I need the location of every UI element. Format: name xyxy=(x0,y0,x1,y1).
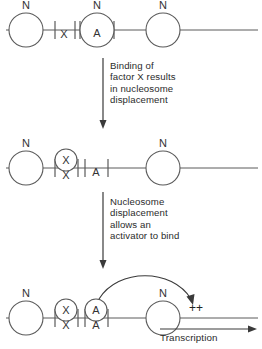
row-1-group: N N N X A xyxy=(6,0,258,47)
site-label-a-row-2: A xyxy=(92,166,100,178)
nucleosome-label-row-3-2: N xyxy=(159,287,167,299)
nucleosome-label-row-3-1: N xyxy=(22,287,30,299)
nucleosome-row-3-1 xyxy=(9,301,43,335)
transcription-label: Transcription xyxy=(160,332,218,343)
row-2-group: N N X X A xyxy=(6,137,258,185)
nucleosome-label-row-2-2: N xyxy=(159,137,167,149)
nucleosome-row-3-2 xyxy=(146,301,180,335)
step-arrow-1-head xyxy=(100,120,107,129)
caption-step-1: Binding of factor X results in nucleosom… xyxy=(110,60,240,106)
factor-x-label-row-2: X xyxy=(62,154,70,166)
row-3-group: N N X A X A ++ xyxy=(6,276,258,335)
nucleosome-label-row-1-1: N xyxy=(22,0,30,11)
site-label-x-row-1: X xyxy=(60,28,68,40)
step-arrow-2-group xyxy=(100,192,107,269)
figure-canvas: N N N X A N N X X A xyxy=(0,0,262,349)
activation-arc xyxy=(99,276,191,299)
site-label-a-row-1: A xyxy=(93,27,101,39)
nucleosome-row-2-2 xyxy=(146,151,180,185)
pathway-diagram: N N N X A N N X X A xyxy=(0,0,262,349)
step-arrow-1-group xyxy=(100,58,107,129)
site-label-x-row-3: X xyxy=(62,319,70,331)
factor-x-label-row-3: X xyxy=(62,304,70,316)
nucleosome-row-2-1 xyxy=(9,151,43,185)
nucleosome-label-row-2-1: N xyxy=(22,137,30,149)
nucleosome-row-1-3 xyxy=(146,13,180,47)
caption-step-2: Nucleosome displacement allows an activa… xyxy=(110,196,240,242)
nucleosome-row-1-1 xyxy=(9,13,43,47)
step-arrow-2-head xyxy=(100,260,107,269)
activator-label-row-3: A xyxy=(92,304,100,316)
nucleosome-label-row-1-3: N xyxy=(159,0,167,11)
nucleosome-label-row-1-2: N xyxy=(93,0,101,11)
site-label-x-row-2: X xyxy=(62,169,70,181)
activation-plus-label: ++ xyxy=(189,301,203,315)
transcription-arrow-head xyxy=(248,326,257,333)
site-label-a-row-3: A xyxy=(92,319,100,331)
